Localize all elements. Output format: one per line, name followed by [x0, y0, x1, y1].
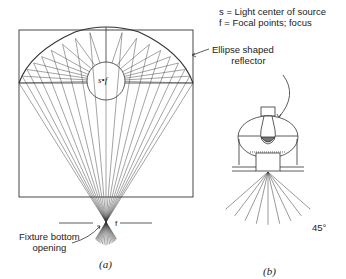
legend-f: f = Focal points; focus	[219, 17, 312, 28]
panel-b-fixture	[226, 75, 311, 225]
fixture-opening-label: Fixture bottom opening	[19, 231, 80, 253]
caption-b: (b)	[263, 265, 276, 277]
legend-s: s = Light center of source	[219, 6, 326, 17]
reflected-rays	[19, 27, 193, 245]
fixture-neck	[256, 153, 280, 171]
output-rays	[226, 172, 311, 225]
fixture-opening-line1: Fixture bottom	[19, 231, 80, 242]
focus-label: f	[115, 218, 117, 229]
reflector-label-line1: Ellipse shaped	[212, 44, 274, 55]
source-focus-label: s•f	[98, 75, 107, 86]
caption-a: (a)	[99, 258, 112, 270]
reflector-label: Ellipse shaped reflector	[212, 44, 274, 66]
angle-label: 45°	[312, 222, 326, 233]
reflector-label-line2: reflector	[212, 55, 274, 66]
panel-a-diagram	[19, 27, 193, 245]
fixture-opening-line2: opening	[19, 242, 80, 253]
reflector-pointer	[279, 75, 290, 117]
lamp-socket	[261, 107, 275, 116]
